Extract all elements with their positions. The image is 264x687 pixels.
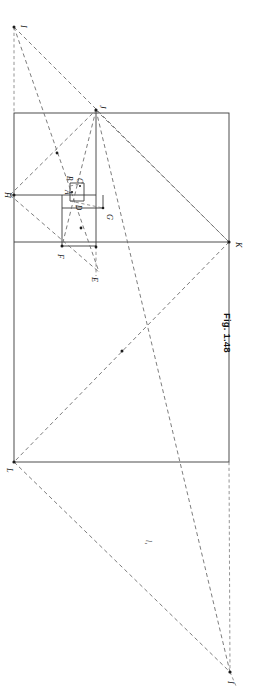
vertex-dot-K: [227, 240, 230, 243]
label-l1: l₁: [144, 540, 152, 545]
label-I-top: I: [19, 24, 28, 29]
vertex-dot-C: [79, 185, 81, 187]
vertex-dot-I-top: [13, 26, 16, 29]
label-D: D: [74, 204, 82, 211]
vertex-dot-F: [61, 245, 64, 248]
label-I-bottom: I: [226, 680, 235, 685]
label-B: B: [65, 176, 73, 181]
vertex-dot-midpoint-upper: [56, 152, 59, 155]
label-G: G: [105, 214, 114, 220]
vertex-dot-E: [95, 246, 98, 249]
vertex-dot-G: [102, 207, 105, 210]
line-tail-below-I-bottom: [230, 672, 236, 686]
label-A: A: [63, 189, 71, 195]
vertex-dot-I-bottom: [228, 670, 231, 673]
vertex-dot-L: [12, 460, 15, 463]
outer-rectangle: [14, 113, 229, 462]
label-E: E: [90, 276, 99, 282]
label-H: H: [3, 191, 12, 199]
figure-container: I J H K L I F E G A B C D l₁ Fig. 1.48: [0, 0, 264, 687]
dashed-construction-lines: [10, 27, 236, 686]
label-L: L: [5, 467, 14, 473]
solid-rectangles: [10, 113, 229, 462]
point-labels: I J H K L I F E G A B C D l₁: [3, 24, 243, 685]
vertex-dots: [12, 26, 231, 674]
label-C: C: [75, 178, 83, 183]
vertex-dot-J: [94, 108, 97, 111]
line-l1-to-I-bottom: [96, 110, 230, 672]
vertex-dot-midpoint-lower: [80, 227, 83, 230]
label-F: F: [56, 253, 65, 260]
label-J: J: [98, 105, 107, 109]
line-K-vertical-to-I-bottom: [229, 462, 230, 672]
figure-caption: Fig. 1.48: [222, 313, 233, 353]
line-L-to-I-bottom: [14, 462, 230, 672]
label-K: K: [234, 241, 243, 248]
vertex-dot-midpoint-center: [121, 350, 124, 353]
